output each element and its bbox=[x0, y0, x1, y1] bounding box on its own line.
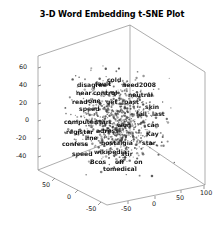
word-label: can bbox=[147, 121, 159, 128]
word-label: get bbox=[106, 98, 117, 105]
word-label: near bbox=[76, 89, 92, 96]
word-label: adress bbox=[96, 127, 119, 134]
word-label: one bbox=[88, 97, 101, 104]
word-label: won bbox=[117, 121, 131, 128]
word-label: read bbox=[72, 98, 88, 105]
word-label: skin bbox=[145, 103, 159, 110]
word-label: nostalgia bbox=[101, 139, 133, 146]
scatter-point-cloud bbox=[0, 0, 224, 235]
word-label: on bbox=[134, 158, 143, 165]
word-label: past bbox=[124, 98, 139, 105]
word-label: control bbox=[93, 89, 117, 96]
word-label: computer bbox=[64, 118, 97, 125]
word-label: speed bbox=[79, 105, 100, 112]
word-label: 2008 bbox=[139, 81, 156, 88]
word-label: need bbox=[122, 81, 139, 88]
word-label: confess bbox=[62, 140, 88, 147]
word-label: neutral bbox=[128, 91, 153, 98]
word-label: fall bbox=[136, 110, 147, 117]
word-label: speed bbox=[72, 150, 93, 157]
word-label: Bcos bbox=[90, 158, 106, 165]
word-label: off bbox=[115, 158, 124, 165]
word-label: medical bbox=[110, 165, 137, 172]
word-label: stir bbox=[121, 150, 133, 157]
word-label: last bbox=[152, 110, 165, 117]
word-label: disagree bbox=[77, 81, 107, 88]
word-label: Kay bbox=[146, 130, 159, 137]
chart-figure: 3-D Word Embedding t-SNE Plot bbox=[0, 0, 224, 235]
word-label: start bbox=[95, 118, 112, 125]
word-label: star bbox=[142, 139, 156, 146]
